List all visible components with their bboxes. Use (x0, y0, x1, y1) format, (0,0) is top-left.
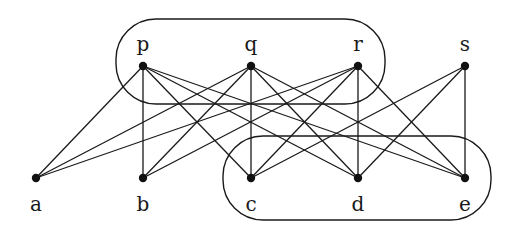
node-s (461, 62, 469, 70)
node-label-c: c (245, 194, 256, 214)
node-label-q: q (245, 34, 258, 54)
node-label-a: a (30, 194, 42, 214)
node-e (461, 174, 469, 182)
group-outlines (116, 19, 491, 220)
node-r (354, 62, 362, 70)
node-a (32, 174, 40, 182)
graph-drawing (0, 0, 516, 232)
bipartite-graph-diagram: p q r s a b c d e (0, 0, 516, 232)
node-label-s: s (460, 34, 470, 54)
edges (36, 66, 465, 178)
node-label-e: e (459, 194, 471, 214)
edge-p-a (36, 66, 143, 178)
node-label-r: r (353, 34, 363, 54)
node-label-d: d (352, 194, 365, 214)
node-label-b: b (137, 194, 150, 214)
node-p (139, 62, 147, 70)
node-c (247, 174, 255, 182)
node-d (354, 174, 362, 182)
edge-r-a (36, 66, 358, 178)
node-label-p: p (137, 34, 150, 54)
node-b (139, 174, 147, 182)
node-q (247, 62, 255, 70)
